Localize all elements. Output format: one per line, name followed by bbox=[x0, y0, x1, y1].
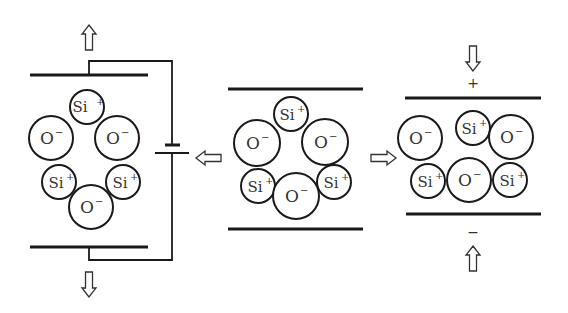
atom-si-left: Si + bbox=[241, 169, 275, 203]
svg-text:Si: Si bbox=[461, 120, 476, 138]
atom-si-left: Si + bbox=[42, 165, 76, 199]
arrow-left-icon bbox=[196, 151, 221, 165]
svg-text:−: − bbox=[55, 127, 63, 138]
svg-text:O: O bbox=[80, 197, 94, 217]
atom-si-right: Si + bbox=[106, 165, 140, 199]
svg-text:+: + bbox=[297, 103, 305, 114]
svg-text:+: + bbox=[265, 175, 273, 186]
svg-text:+: + bbox=[435, 170, 443, 181]
atom-o-bottom: O − bbox=[273, 173, 319, 219]
svg-text:+: + bbox=[96, 96, 104, 107]
atom-o-left: O − bbox=[234, 120, 280, 166]
svg-text:O: O bbox=[458, 170, 472, 190]
atom-o-bottom-center: O − bbox=[447, 158, 491, 202]
atom-o-top-left: O − bbox=[398, 116, 442, 160]
arrow-right-icon bbox=[371, 151, 396, 165]
piezoelectric-diagram: Si + O − O − Si + Si + O − bbox=[0, 0, 568, 313]
atom-o-left: O − bbox=[29, 116, 73, 160]
svg-text:O: O bbox=[314, 132, 328, 152]
svg-text:O: O bbox=[106, 128, 120, 148]
svg-text:Si: Si bbox=[279, 106, 294, 124]
atom-si-bottom-right: Si + bbox=[493, 163, 527, 197]
svg-text:+: + bbox=[66, 171, 74, 182]
atom-si-top: Si + bbox=[70, 90, 104, 124]
svg-text:O: O bbox=[40, 128, 54, 148]
negative-charge-label: − bbox=[467, 224, 479, 240]
svg-text:−: − bbox=[261, 132, 269, 143]
left-panel: Si + O − O − Si + Si + O − bbox=[29, 25, 189, 297]
right-panel: + − O − Si + O − Si + O − bbox=[398, 46, 541, 271]
svg-text:−: − bbox=[329, 131, 337, 142]
arrow-down-icon bbox=[82, 272, 96, 297]
svg-text:Si: Si bbox=[499, 172, 514, 190]
svg-text:−: − bbox=[424, 127, 432, 138]
arrow-up-icon bbox=[82, 25, 96, 50]
svg-text:O: O bbox=[500, 127, 514, 147]
atom-o-bottom: O − bbox=[69, 185, 113, 229]
atom-o-right: O − bbox=[302, 119, 348, 165]
middle-panel: Si + O − O − Si + Si + O − bbox=[228, 89, 363, 229]
svg-text:Si: Si bbox=[417, 173, 432, 191]
svg-text:−: − bbox=[473, 169, 481, 180]
atom-si-bottom-left: Si + bbox=[411, 164, 445, 198]
svg-text:+: + bbox=[479, 117, 487, 128]
svg-text:−: − bbox=[121, 127, 129, 138]
atom-si-top: Si + bbox=[274, 97, 308, 131]
svg-text:−: − bbox=[515, 126, 523, 137]
arrow-down-icon bbox=[466, 46, 480, 71]
svg-text:Si: Si bbox=[48, 174, 63, 192]
svg-text:−: − bbox=[300, 185, 308, 196]
svg-text:Si: Si bbox=[112, 174, 127, 192]
svg-text:−: − bbox=[95, 196, 103, 207]
svg-text:Si: Si bbox=[247, 178, 262, 196]
svg-text:+: + bbox=[130, 171, 138, 182]
svg-text:Si: Si bbox=[72, 98, 87, 116]
arrow-up-icon bbox=[466, 246, 480, 271]
atom-o-right: O − bbox=[95, 116, 139, 160]
atom-si-right: Si + bbox=[317, 165, 351, 199]
svg-text:O: O bbox=[285, 186, 299, 206]
svg-text:+: + bbox=[341, 171, 349, 182]
svg-text:O: O bbox=[246, 133, 260, 153]
svg-text:O: O bbox=[409, 128, 423, 148]
atom-o-top-right: O − bbox=[489, 115, 533, 159]
atom-si-top: Si + bbox=[456, 111, 490, 145]
svg-text:Si: Si bbox=[323, 174, 338, 192]
svg-text:+: + bbox=[517, 169, 525, 180]
positive-charge-label: + bbox=[467, 75, 479, 91]
